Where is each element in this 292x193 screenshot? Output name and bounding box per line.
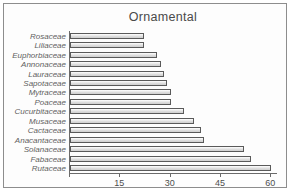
bar-row: Cactaceae: [70, 126, 277, 135]
category-label: Rosaceae: [30, 31, 66, 40]
x-axis-tick: [119, 173, 120, 177]
x-axis-tick: [220, 173, 221, 177]
category-label: Cucurbitaceae: [14, 107, 66, 116]
bar: [70, 165, 271, 171]
bar: [70, 52, 157, 58]
category-label: Rutaceae: [32, 164, 66, 173]
bar: [70, 42, 144, 48]
plot-area: RosaceaeLiliaceaeEuphorbiaceaeAnnonaceae…: [69, 31, 277, 173]
bar: [70, 71, 164, 77]
bar-row: Mytraceae: [70, 88, 277, 97]
bar-row: Sapotaceae: [70, 78, 277, 87]
bar-row: Annonaceae: [70, 59, 277, 68]
bar: [70, 137, 204, 143]
bar-row: Lauraceae: [70, 69, 277, 78]
bar: [70, 118, 194, 124]
bar-row: Solanaceae: [70, 144, 277, 153]
category-label: Liliaceae: [34, 41, 66, 50]
bar-row: Musaceae: [70, 116, 277, 125]
bar-row: Anacantaceae: [70, 135, 277, 144]
category-label: Poaceae: [34, 97, 66, 106]
category-label: Mytraceae: [29, 88, 66, 97]
x-axis-tick: [170, 173, 171, 177]
category-label: Anacantaceae: [15, 135, 66, 144]
bar-row: Cucurbitaceae: [70, 107, 277, 116]
category-label: Solanaceae: [24, 145, 66, 154]
bar-row: Fabaceae: [70, 154, 277, 163]
x-axis-tick-label: 60: [265, 178, 275, 188]
x-axis-line: [69, 173, 277, 174]
category-label: Musaceae: [29, 116, 66, 125]
category-label: Cactaceae: [28, 126, 66, 135]
bar: [70, 61, 161, 67]
bar-row: Euphorbiaceae: [70, 50, 277, 59]
category-label: Lauraceae: [28, 69, 66, 78]
bar: [70, 99, 171, 105]
category-label: Annonaceae: [21, 60, 66, 69]
bar: [70, 80, 167, 86]
bar-row: Poaceae: [70, 97, 277, 106]
bar: [70, 127, 201, 133]
category-label: Euphorbiaceae: [12, 50, 66, 59]
bar: [70, 33, 144, 39]
bar-row: Rosaceae: [70, 31, 277, 40]
chart-title: Ornamental: [4, 10, 286, 24]
category-label: Sapotaceae: [23, 78, 66, 87]
chart-frame: Ornamental RosaceaeLiliaceaeEuphorbiacea…: [3, 3, 287, 188]
x-axis-origin-tick: [69, 170, 70, 177]
x-axis-tick-label: 30: [165, 178, 175, 188]
bar: [70, 89, 171, 95]
category-label: Fabaceae: [30, 154, 66, 163]
bar: [70, 146, 244, 152]
x-axis-tick: [270, 173, 271, 177]
x-axis-tick-label: 45: [215, 178, 225, 188]
bar-row: Rutaceae: [70, 163, 277, 172]
bar: [70, 108, 184, 114]
x-axis-tick-label: 15: [114, 178, 124, 188]
bar-row: Liliaceae: [70, 40, 277, 49]
bar: [70, 156, 251, 162]
